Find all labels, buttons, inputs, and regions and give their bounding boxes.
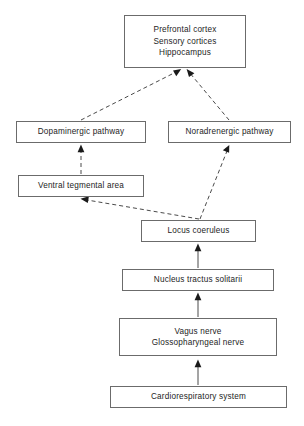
node-label-line: Ventral tegmental area xyxy=(38,180,124,192)
edge-vta-to-dopaminergic xyxy=(78,145,85,175)
edge-locus-to-noradrenergic xyxy=(200,145,229,219)
node-label-line: Dopaminergic pathway xyxy=(38,126,125,138)
node-label-line: Cardiorespiratory system xyxy=(151,391,246,403)
node-cardiorespiratory-system[interactable]: Cardiorespiratory system xyxy=(110,386,287,408)
node-dopaminergic-pathway[interactable]: Dopaminergic pathway xyxy=(16,121,146,143)
node-locus-coeruleus[interactable]: Locus coeruleus xyxy=(141,220,256,242)
node-label-line: Glossopharyngeal nerve xyxy=(152,337,244,349)
node-label-line: Locus coeruleus xyxy=(167,225,229,237)
node-cranial-nerves[interactable]: Vagus nerve Glossopharyngeal nerve xyxy=(119,318,277,356)
node-nucleus-tractus-solitarii[interactable]: Nucleus tractus solitarii xyxy=(122,269,274,291)
node-cortical-targets[interactable]: Prefrontal cortex Sensory cortices Hippo… xyxy=(124,15,246,68)
edge-cardio-to-nerves xyxy=(195,360,202,386)
edge-nerves-to-nts xyxy=(195,293,202,318)
edge-nts-to-locus xyxy=(195,244,202,269)
edge-noradrenergic-to-cortex xyxy=(187,69,229,120)
node-ventral-tegmental-area[interactable]: Ventral tegmental area xyxy=(18,175,144,197)
node-label-line: Hippocampus xyxy=(159,47,211,59)
node-label-line: Noradrenergic pathway xyxy=(185,126,273,138)
node-label-line: Sensory cortices xyxy=(153,36,216,48)
node-label-line: Prefrontal cortex xyxy=(154,24,217,36)
pathway-diagram: Prefrontal cortex Sensory cortices Hippo… xyxy=(0,0,304,426)
edge-dopaminergic-to-cortex xyxy=(81,69,181,120)
node-label-line: Vagus nerve xyxy=(174,326,221,338)
edge-locus-to-vta xyxy=(81,196,200,219)
node-label-line: Nucleus tractus solitarii xyxy=(154,274,242,286)
node-noradrenergic-pathway[interactable]: Noradrenergic pathway xyxy=(168,121,291,143)
